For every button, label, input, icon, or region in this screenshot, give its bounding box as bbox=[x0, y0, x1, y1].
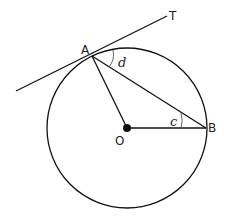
circle-tangent-diagram: T A d c B O bbox=[0, 0, 227, 218]
label-c: c bbox=[170, 114, 178, 129]
angle-d-arc bbox=[109, 50, 113, 67]
label-b: B bbox=[208, 121, 216, 135]
label-t: T bbox=[168, 9, 177, 23]
angle-c-arc bbox=[181, 113, 182, 128]
label-a: A bbox=[81, 43, 90, 57]
label-o: O bbox=[115, 134, 124, 148]
tangent-line bbox=[16, 16, 167, 91]
label-d: d bbox=[118, 55, 126, 70]
center-point bbox=[123, 124, 131, 132]
